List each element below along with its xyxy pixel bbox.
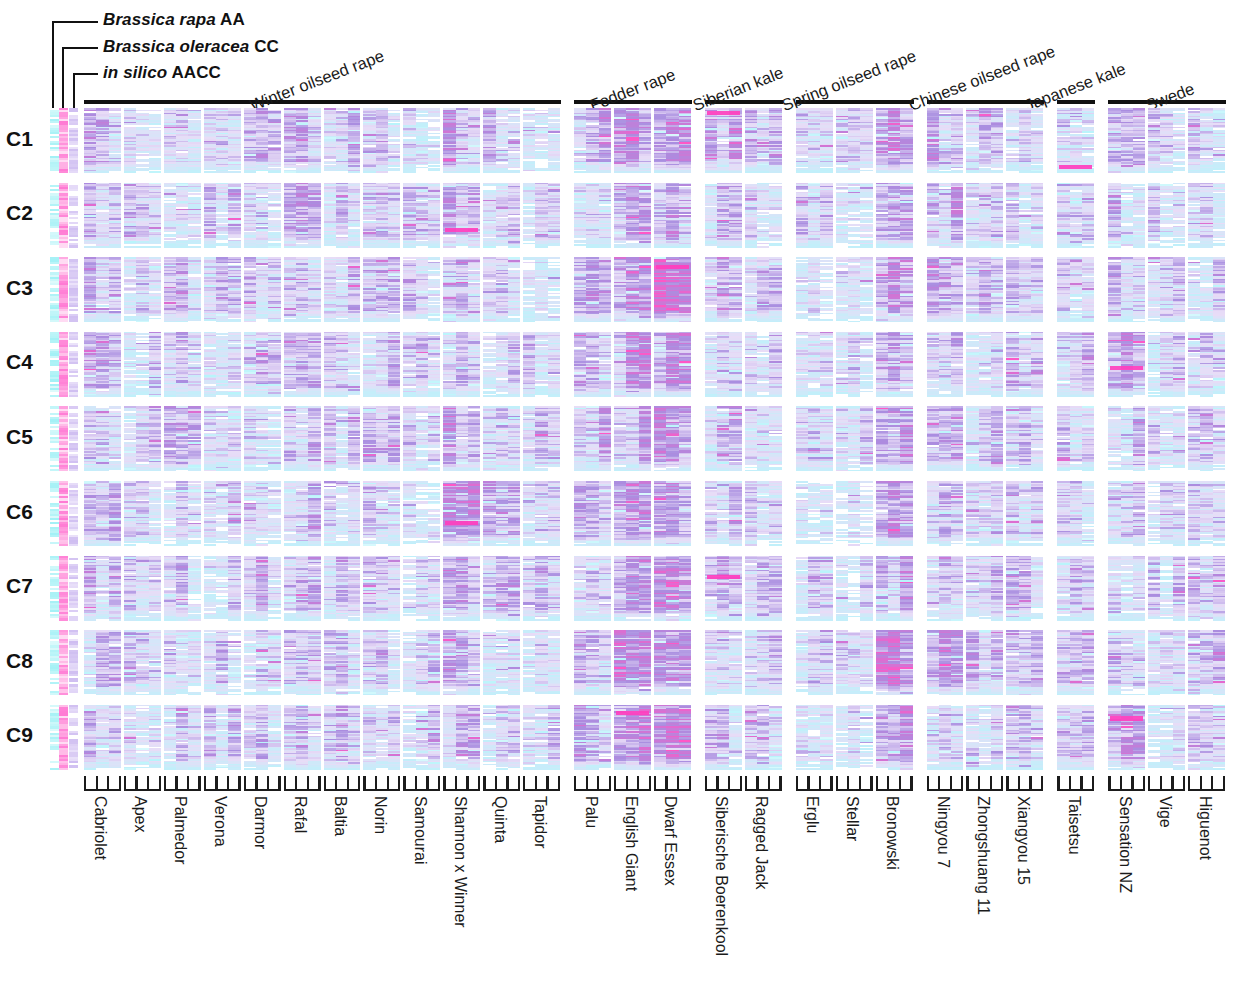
heatmap-block [966, 705, 1003, 770]
cultivar-label-dwarf-essex: Dwarf Essex [661, 796, 679, 886]
heatmap-block [574, 705, 611, 770]
heatmap-block [1057, 630, 1094, 695]
heatmap-block [124, 556, 161, 621]
heatmap-block [244, 481, 281, 546]
heatmap-block [745, 556, 782, 621]
cultivar-label-tapidor: Tapidor [531, 796, 549, 848]
heatmap-block [966, 406, 1003, 471]
heatmap-block [84, 556, 121, 621]
heatmap-block [1057, 332, 1094, 397]
heatmap-block [483, 630, 520, 695]
heatmap-block [966, 183, 1003, 248]
cultivar-bracket-palu [574, 776, 611, 791]
heatmap-block [1108, 108, 1145, 173]
heatmap-block [796, 183, 833, 248]
heatmap-block [614, 481, 651, 546]
heatmap-block [1006, 183, 1043, 248]
heatmap-block [927, 481, 964, 546]
heatmap-block [1188, 630, 1225, 695]
heatmap-block [443, 630, 480, 695]
heatmap-block [244, 332, 281, 397]
callout-insilico-genome: AACC [171, 63, 221, 82]
heatmap-block [84, 481, 121, 546]
heatmap-block [284, 556, 321, 621]
heatmap-band-c5 [0, 406, 1234, 471]
heatmap-block [705, 332, 742, 397]
heatmap-block [876, 257, 913, 322]
cultivar-label-xiangyou-15: Xiangyou 15 [1014, 796, 1032, 885]
heatmap-block [523, 108, 560, 173]
heatmap-block [164, 481, 201, 546]
heatmap-block [284, 406, 321, 471]
heatmap-block [204, 556, 241, 621]
heatmap-block [1057, 556, 1094, 621]
heatmap-block [836, 705, 873, 770]
heatmap-block [966, 556, 1003, 621]
heatmap-block [523, 630, 560, 695]
heatmap-block [705, 108, 742, 173]
cultivar-bracket-cabriolet [84, 776, 121, 791]
heatmap-block [1006, 406, 1043, 471]
heatmap-block [403, 481, 440, 546]
heatmap-block [836, 406, 873, 471]
heatmap-block [1057, 108, 1094, 173]
heatmap-block [284, 183, 321, 248]
heatmap-block [574, 630, 611, 695]
callout-brassica-rapa: Brassica rapa AA [103, 10, 245, 30]
heatmap-block [705, 630, 742, 695]
heatmap-block [745, 257, 782, 322]
heatmap-block [164, 183, 201, 248]
heatmap-block [745, 332, 782, 397]
heatmap-block [745, 705, 782, 770]
heatmap-block [876, 556, 913, 621]
heatmap-block [483, 481, 520, 546]
heatmap-block [324, 183, 361, 248]
heatmap-block [705, 556, 742, 621]
heatmap-block [1108, 630, 1145, 695]
heatmap-block [443, 257, 480, 322]
leader-line-rapa-h [52, 21, 98, 23]
heatmap-block [1148, 630, 1185, 695]
heatmap-band-c2 [0, 183, 1234, 248]
heatmap-block [284, 630, 321, 695]
heatmap-block [403, 406, 440, 471]
heatmap-block [1006, 705, 1043, 770]
heatmap-block [363, 406, 400, 471]
heatmap-block [654, 406, 691, 471]
cultivar-bracket-baltia [324, 776, 361, 791]
cultivar-label-palu: Palu [582, 796, 600, 828]
heatmap-block [403, 257, 440, 322]
heatmap-block [927, 556, 964, 621]
heatmap-block [1006, 257, 1043, 322]
heatmap-block [654, 108, 691, 173]
callout-insilico-species: in silico [103, 63, 167, 82]
heatmap-block [244, 705, 281, 770]
heatmap-block [324, 108, 361, 173]
heatmap-block [523, 332, 560, 397]
leader-line-insilico-h [73, 73, 98, 75]
heatmap-block [403, 108, 440, 173]
heatmap-block [204, 630, 241, 695]
cultivar-bracket-tapidor [523, 776, 560, 791]
heatmap-block [927, 257, 964, 322]
heatmap-block [124, 630, 161, 695]
cultivar-bracket-taisetsu [1057, 776, 1094, 791]
heatmap-block [836, 183, 873, 248]
heatmap-band-c1 [0, 108, 1234, 173]
heatmap-block [284, 108, 321, 173]
group-label-japanese-kale: Japanese kale [1023, 59, 1129, 115]
heatmap-block [1108, 481, 1145, 546]
heatmap-block [403, 183, 440, 248]
heatmap-block [483, 332, 520, 397]
heatmap-band-c4 [0, 332, 1234, 397]
heatmap-block [1188, 481, 1225, 546]
heatmap-block [876, 630, 913, 695]
cultivar-bracket-shannon-x-winner [443, 776, 480, 791]
heatmap-block [523, 257, 560, 322]
heatmap-block [796, 108, 833, 173]
cultivar-bracket-palmedor [164, 776, 201, 791]
heatmap-block [483, 556, 520, 621]
heatmap-block [124, 257, 161, 322]
heatmap-block [927, 108, 964, 173]
cultivar-label-palmedor: Palmedor [171, 796, 189, 864]
